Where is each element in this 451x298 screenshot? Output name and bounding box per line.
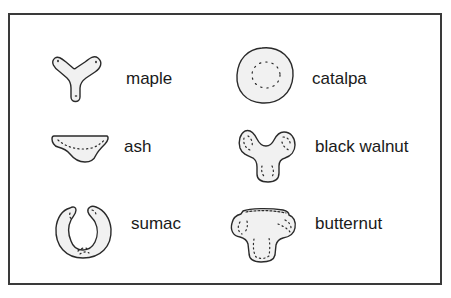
ash-label: ash xyxy=(124,138,151,155)
butternut-label: butternut xyxy=(315,215,382,232)
black-walnut-label: black walnut xyxy=(315,138,409,155)
catalpa-leaf-scar-icon xyxy=(237,48,293,103)
sumac-leaf-scar-icon xyxy=(56,206,111,258)
butternut-leaf-scar-icon xyxy=(231,209,295,262)
catalpa-label: catalpa xyxy=(312,70,367,87)
maple-leaf-scar-icon xyxy=(53,57,101,102)
ash-leaf-scar-icon xyxy=(52,136,108,162)
black-walnut-leaf-scar-icon xyxy=(239,130,295,182)
sumac-label: sumac xyxy=(131,215,181,232)
maple-label: maple xyxy=(126,70,172,87)
